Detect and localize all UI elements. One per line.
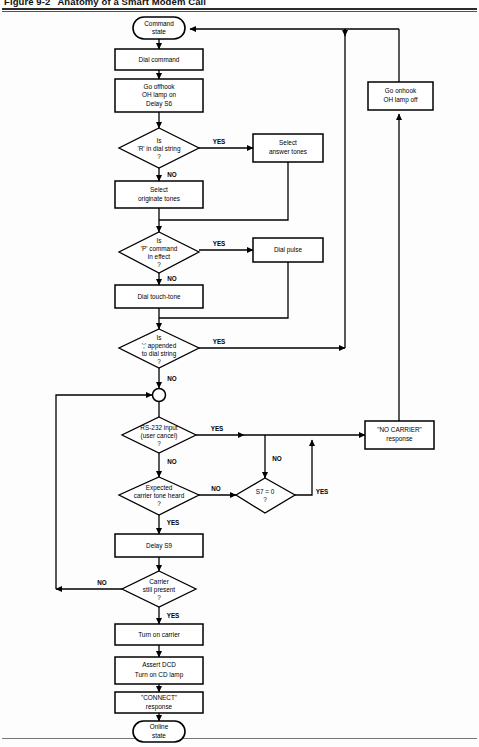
node-decision-semicolon-appended[interactable]: Is ';' appended to dial string ? bbox=[119, 329, 199, 368]
node-delay-s9-label: Delay S9 bbox=[146, 542, 172, 550]
node-dial-pulse[interactable]: Dial pulse bbox=[253, 238, 323, 262]
node-select-answer-tones[interactable]: Select answer tones bbox=[253, 134, 323, 162]
node-delay-s9[interactable]: Delay S9 bbox=[115, 534, 203, 557]
node-connect-line1: "CONNECT" bbox=[141, 694, 177, 701]
edge-label-p-yes: YES bbox=[213, 240, 226, 247]
node-go-offhook-line2: OH lamp on bbox=[142, 91, 177, 99]
node-decision-s7-line1: S7 = 0 bbox=[256, 488, 275, 495]
edge-label-still-yes: YES bbox=[167, 612, 180, 619]
node-decision-expected-line2: carrier tone heard bbox=[134, 492, 185, 499]
node-go-onhook-line1: Go onhook bbox=[385, 87, 417, 94]
node-decision-semi-line2: ';' appended bbox=[142, 342, 177, 350]
node-decision-still-line1: Carrier bbox=[149, 578, 169, 585]
node-select-originate-tones[interactable]: Select originate tones bbox=[115, 181, 203, 208]
node-decision-p-command[interactable]: Is 'P' command in effect ? bbox=[119, 232, 199, 273]
node-go-onhook[interactable]: Go onhook OH lamp off bbox=[368, 82, 433, 110]
node-dial-command-label: Dial command bbox=[139, 56, 180, 63]
node-no-carrier-response[interactable]: "NO CARRIER" response bbox=[365, 421, 434, 449]
node-decision-p-line1: Is bbox=[157, 237, 162, 244]
edge-label-semi-no: NO bbox=[167, 375, 177, 382]
node-select-answer-line2: answer tones bbox=[269, 148, 307, 155]
edge-label-still-no: NO bbox=[97, 579, 107, 586]
edge-label-s7-return-no: NO bbox=[272, 455, 282, 462]
edge-label-expected-no: NO bbox=[211, 485, 221, 492]
node-online-state-line1: Online bbox=[150, 723, 169, 730]
node-decision-rs232-line3: ? bbox=[157, 440, 161, 447]
node-go-offhook-line1: Go offhook bbox=[143, 83, 175, 90]
node-turn-on-carrier-label: Turn on carrier bbox=[138, 631, 181, 638]
node-command-state-line1: Command bbox=[144, 20, 174, 27]
node-decision-rs232-line2: (user cancel) bbox=[141, 432, 178, 440]
node-decision-carrier-still-present[interactable]: Carrier still present ? bbox=[122, 571, 196, 607]
node-go-offhook-line3: Delay S6 bbox=[146, 100, 172, 108]
node-decision-rs232-input[interactable]: RS-232 input (user cancel) ? bbox=[122, 417, 196, 453]
edge-label-r-no: NO bbox=[167, 171, 177, 178]
node-decision-rs232-line1: RS-232 input bbox=[140, 424, 178, 432]
node-decision-r-line1: Is bbox=[157, 137, 162, 144]
node-decision-p-line2: 'P' command bbox=[141, 245, 178, 252]
edge-label-p-no: NO bbox=[167, 275, 177, 282]
node-decision-expected-carrier-tone[interactable]: Expected carrier tone heard ? bbox=[119, 477, 199, 515]
node-dial-touch-tone[interactable]: Dial touch-tone bbox=[115, 285, 203, 308]
node-decision-p-line3: in effect bbox=[148, 253, 170, 260]
node-decision-still-line3: ? bbox=[157, 594, 161, 601]
node-dial-pulse-label: Dial pulse bbox=[274, 246, 303, 254]
figure-page: Figure 9-2Anatomy of a Smart Modem Call bbox=[0, 0, 479, 747]
node-dial-touch-tone-label: Dial touch-tone bbox=[138, 293, 181, 300]
node-no-carrier-line1: "NO CARRIER" bbox=[377, 426, 422, 433]
node-assert-dcd-line1: Assert DCD bbox=[142, 661, 176, 668]
edge-label-rs232-yes: YES bbox=[211, 425, 224, 432]
node-decision-still-line2: still present bbox=[143, 586, 176, 594]
node-go-offhook[interactable]: Go offhook OH lamp on Delay S6 bbox=[115, 79, 203, 112]
node-connect-response[interactable]: "CONNECT" response bbox=[115, 692, 203, 713]
node-junction-connector bbox=[153, 389, 166, 402]
flowchart-canvas: Command state Dial command Go offhook OH… bbox=[0, 0, 479, 747]
node-assert-dcd-line2: Turn on CD lamp bbox=[135, 671, 184, 679]
node-select-originate-line1: Select bbox=[150, 186, 168, 193]
node-decision-semi-line1: Is bbox=[157, 334, 162, 341]
edge-label-s7-yes: YES bbox=[316, 488, 329, 495]
node-online-state[interactable]: Online state bbox=[133, 721, 185, 742]
node-decision-r-line2: 'R' in dial string bbox=[138, 145, 181, 153]
node-select-answer-line1: Select bbox=[279, 139, 297, 146]
edge-s7-yes bbox=[295, 440, 312, 495]
node-decision-r-in-dial-string[interactable]: Is 'R' in dial string ? bbox=[119, 128, 199, 168]
edge-label-r-yes: YES bbox=[213, 138, 226, 145]
edge-label-rs232-no: NO bbox=[167, 458, 177, 465]
node-online-state-line2: state bbox=[152, 732, 166, 739]
edge-label-semi-yes: YES bbox=[213, 338, 226, 345]
node-decision-semi-line4: ? bbox=[157, 358, 161, 365]
node-go-onhook-line2: OH lamp off bbox=[384, 96, 418, 104]
node-decision-semi-line3: to dial string bbox=[142, 350, 177, 358]
node-assert-dcd[interactable]: Assert DCD Turn on CD lamp bbox=[115, 657, 203, 684]
node-decision-p-line4: ? bbox=[157, 261, 161, 268]
node-connect-line2: response bbox=[146, 703, 173, 711]
edge-label-expected-yes: YES bbox=[167, 519, 180, 526]
node-decision-r-line3: ? bbox=[157, 153, 161, 160]
node-no-carrier-line2: response bbox=[386, 435, 413, 443]
node-command-state-line2: state bbox=[152, 28, 166, 35]
node-command-state[interactable]: Command state bbox=[133, 17, 185, 39]
node-decision-s7-line2: ? bbox=[263, 496, 267, 503]
node-dial-command[interactable]: Dial command bbox=[115, 49, 203, 70]
node-decision-expected-line1: Expected bbox=[146, 484, 173, 492]
node-turn-on-carrier[interactable]: Turn on carrier bbox=[115, 624, 203, 645]
node-select-originate-line2: originate tones bbox=[138, 195, 180, 203]
node-decision-s7-equals-zero[interactable]: S7 = 0 ? bbox=[236, 478, 295, 513]
edges-layer bbox=[56, 29, 399, 721]
node-decision-expected-line3: ? bbox=[157, 500, 161, 507]
